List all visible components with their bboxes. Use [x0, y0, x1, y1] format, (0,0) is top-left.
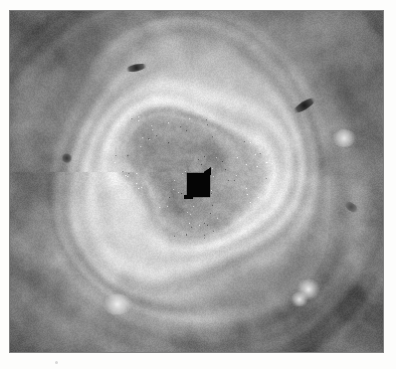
scan-speck-artifact — [55, 361, 58, 364]
image-alt-text: Grayscale polar projection of a giant-pl… — [0, 0, 1, 1]
image-title: Polar vortex cloud structure — [0, 0, 1, 1]
photographic-plate — [9, 10, 384, 353]
central-data-gap — [187, 173, 210, 197]
page-background: Grayscale polar projection of a giant-pl… — [0, 0, 396, 369]
